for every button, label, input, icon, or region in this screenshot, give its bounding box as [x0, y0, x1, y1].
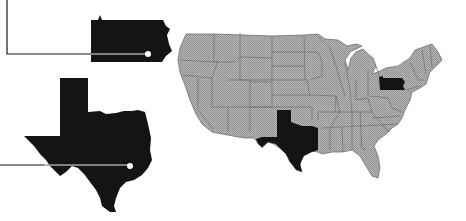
us-outline — [178, 34, 442, 178]
us-map — [178, 33, 442, 178]
callout-dot-texas — [127, 163, 133, 169]
callout-pennsylvania — [7, 0, 172, 62]
us-map-figure: Map of the contiguous United States with… — [0, 0, 466, 221]
callout-shape-texas — [24, 78, 152, 212]
map-state-pennsylvania — [379, 76, 405, 90]
map-canvas — [0, 0, 466, 221]
callout-texas — [0, 78, 152, 212]
callout-shape-pennsylvania — [91, 15, 172, 62]
callout-dot-pennsylvania — [145, 51, 151, 57]
